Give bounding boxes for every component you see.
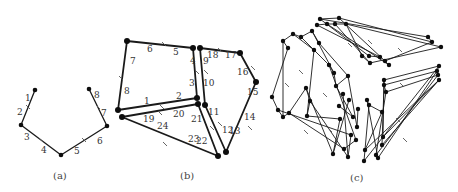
panel-c-node — [382, 78, 386, 82]
panel-b-edge-label: 19 — [143, 114, 155, 124]
panel-a-edge-label: 7 — [101, 108, 107, 118]
panel-c-node — [362, 159, 366, 163]
panel-b-edge-label: 3 — [189, 78, 195, 88]
panel-b-node — [253, 79, 259, 85]
panel-c-node — [337, 16, 341, 20]
panel-c-node — [384, 90, 388, 94]
panel-c-edge — [357, 109, 358, 127]
panel-c-tick-mark — [398, 48, 402, 52]
panel-c-node — [308, 99, 312, 103]
panel-b-node — [237, 50, 243, 56]
panel-b-edge-label: 10 — [203, 78, 215, 88]
panel-b-tick-mark — [204, 70, 208, 74]
panel-c-edge — [312, 31, 334, 73]
panel-c-edge — [336, 76, 348, 86]
panel-b-tick-mark — [158, 111, 162, 115]
panel-c-node — [383, 59, 387, 63]
panel-c-node — [435, 69, 439, 73]
panel-c-node — [299, 35, 303, 39]
panel-b-edge-label: 4 — [190, 56, 196, 66]
panel-c-node — [378, 55, 382, 59]
panel-c-node — [281, 115, 285, 119]
panel-b-edge — [118, 98, 197, 110]
panel-c-tick-mark — [285, 83, 289, 87]
panel-b-edge-label: 24 — [157, 121, 169, 131]
panel-c-node — [363, 148, 367, 152]
panel-c-node — [346, 74, 350, 78]
panel-c-node — [356, 107, 360, 111]
panel-c-node — [365, 98, 369, 102]
panel-b-edge — [127, 41, 193, 48]
panel-a-edge-label: 8 — [94, 90, 100, 100]
panel-b-node — [124, 38, 130, 44]
panel-c-edge — [289, 88, 306, 113]
panel-c-node — [331, 152, 335, 156]
panel-c-node — [338, 117, 342, 121]
panel-c-node — [312, 48, 316, 52]
panel-c-node — [368, 61, 372, 65]
panel-c-node — [291, 32, 295, 36]
panel-c-node — [346, 155, 350, 159]
panel-a-edge-label: 6 — [97, 136, 103, 146]
panel-c-node — [387, 63, 391, 67]
panel-c-node — [281, 39, 285, 43]
panel-c-node — [337, 104, 341, 108]
panel-b-node — [215, 153, 221, 159]
panel-b-edge-label: 23 — [188, 134, 200, 144]
panel-a-node — [87, 87, 92, 92]
panel-c-tick-mark — [299, 70, 303, 74]
panel-a-edge-label: 1 — [25, 93, 31, 103]
figure-canvas: 12345678 1234567891011121314151617181920… — [0, 0, 458, 192]
panel-c-node — [382, 83, 386, 87]
panel-a-edge-label: 4 — [41, 145, 47, 155]
caption-a: (a) — [53, 170, 67, 181]
caption-c: (c) — [350, 172, 364, 183]
panel-b-edge-label: 13 — [229, 126, 241, 136]
panel-b-tick-mark — [163, 142, 167, 146]
panel-c-tick-mark — [368, 40, 372, 44]
panel-a-edge-label: 3 — [24, 132, 30, 142]
panel-c-node — [437, 78, 441, 82]
panel-b-node — [119, 114, 125, 120]
panel-c-node — [349, 133, 353, 137]
panel-c-node — [367, 54, 371, 58]
panel-c-edge — [307, 116, 340, 119]
panel-c-node — [334, 84, 338, 88]
panel-captions: (a) (b) (c) — [53, 170, 364, 183]
panel-c-node — [436, 73, 440, 77]
panel-c-node — [354, 138, 358, 142]
panel-c-node — [315, 23, 319, 27]
panel-c-node — [286, 46, 290, 50]
panel-b-tick-mark — [210, 126, 214, 130]
panel-b-tick-mark — [251, 66, 255, 70]
panel-c-node — [332, 71, 336, 75]
panel-c-node — [355, 125, 359, 129]
panel-b-edge-label: 18 — [207, 50, 219, 60]
panel-c-node — [270, 95, 274, 99]
panel-b-edge-label: 15 — [247, 87, 259, 97]
panel-b-tick-mark — [160, 105, 164, 109]
panel-c-node — [305, 114, 309, 118]
panel-c-tick-mark — [348, 43, 352, 47]
panel-b-edge-label: 1 — [144, 96, 150, 106]
panel-b-edge-label: 6 — [147, 44, 153, 54]
panel-b-node — [190, 45, 196, 51]
panel-a-node — [33, 88, 38, 93]
panel-c-edge — [369, 105, 382, 112]
panel-c-tick-mark — [304, 130, 308, 134]
panel-c-node — [347, 98, 351, 102]
panel-b-edge — [122, 104, 198, 117]
panel-b-edge-label: 17 — [225, 50, 237, 60]
panel-b-edge-label: 21 — [191, 114, 202, 124]
panel-a-node — [59, 153, 64, 158]
panel-b-edge-label: 8 — [124, 86, 130, 96]
panel-c-node — [437, 64, 441, 68]
panel-b-node — [223, 149, 229, 155]
panel-c-node — [360, 54, 364, 58]
panel-b-edge-label: 7 — [130, 56, 136, 66]
panel-b-tick-mark — [248, 126, 252, 130]
panel-c-node — [376, 156, 380, 160]
panel-c-edge — [272, 48, 288, 97]
panel-a-graph: 12345678 — [17, 87, 109, 158]
panel-a-node — [19, 123, 24, 128]
